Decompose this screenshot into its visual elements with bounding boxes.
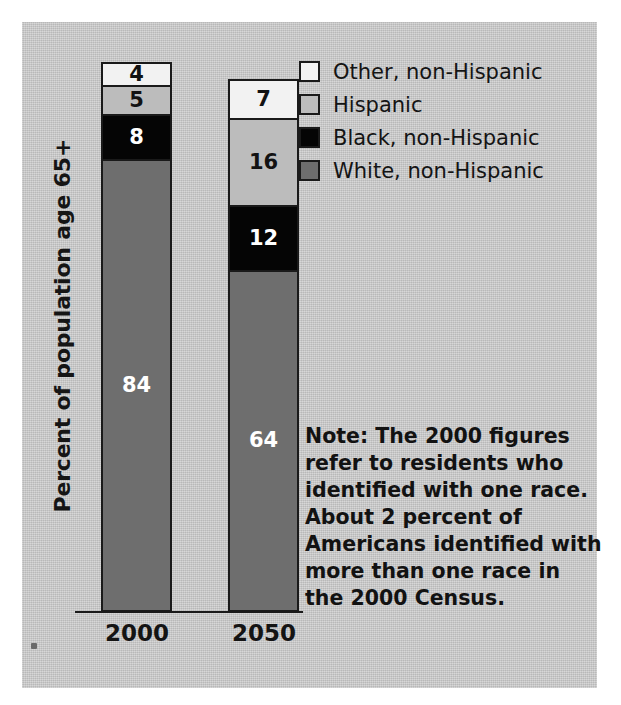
legend-item-1: Hispanic (299, 88, 589, 121)
note-line-2: identified with one race. (305, 477, 585, 504)
bar-segment-2050-1: 16 (230, 118, 297, 205)
legend-swatch-icon (299, 94, 320, 115)
legend-swatch-icon (299, 127, 320, 148)
x-tick-label-2050: 2050 (204, 620, 324, 646)
note-line-4: Americans identified with (305, 531, 585, 558)
bar-segment-2000-1: 5 (103, 85, 170, 114)
legend-item-2: Black, non-Hispanic (299, 121, 589, 154)
note-line-6: the 2000 Census. (305, 585, 585, 612)
legend: Other, non-HispanicHispanicBlack, non-Hi… (299, 55, 589, 187)
legend-label: Other, non-Hispanic (333, 60, 542, 84)
bar-segment-2050-3: 64 (230, 270, 297, 610)
legend-label: Black, non-Hispanic (333, 126, 540, 150)
note-text: Note: The 2000 figuresrefer to residents… (305, 423, 585, 612)
bar-segment-2000-2: 8 (103, 114, 170, 159)
bar-segment-value: 84 (122, 375, 151, 396)
y-axis-label: Percent of population age 65+ (50, 193, 75, 513)
bar-segment-value: 4 (129, 64, 144, 85)
chart-figure: Percent of population age 65+ 45884 7161… (0, 0, 621, 705)
legend-swatch-icon (299, 61, 320, 82)
note-line-5: more than one race in (305, 558, 585, 585)
legend-item-0: Other, non-Hispanic (299, 55, 589, 88)
bar-segment-value: 16 (249, 152, 278, 173)
bar-segment-value: 64 (249, 430, 278, 451)
stacked-bar-2000: 45884 (101, 62, 172, 612)
scan-artifact-speck (31, 643, 37, 649)
note-line-0: Note: The 2000 figures (305, 423, 585, 450)
bar-segment-value: 8 (129, 127, 144, 148)
x-tick-label-2000: 2000 (77, 620, 197, 646)
note-line-1: refer to residents who (305, 450, 585, 477)
bar-segment-2000-3: 84 (103, 159, 170, 610)
bar-segment-2000-0: 4 (103, 64, 170, 85)
legend-item-3: White, non-Hispanic (299, 154, 589, 187)
legend-label: Hispanic (333, 93, 422, 117)
bar-segment-value: 5 (129, 90, 144, 111)
legend-label: White, non-Hispanic (333, 159, 544, 183)
bar-segment-2050-2: 12 (230, 205, 297, 270)
bar-segment-value: 7 (256, 89, 271, 110)
bar-segment-2050-0: 7 (230, 81, 297, 118)
stacked-bar-2050: 7161264 (228, 79, 299, 612)
legend-swatch-icon (299, 160, 320, 181)
bar-segment-value: 12 (249, 228, 278, 249)
note-line-3: About 2 percent of (305, 504, 585, 531)
